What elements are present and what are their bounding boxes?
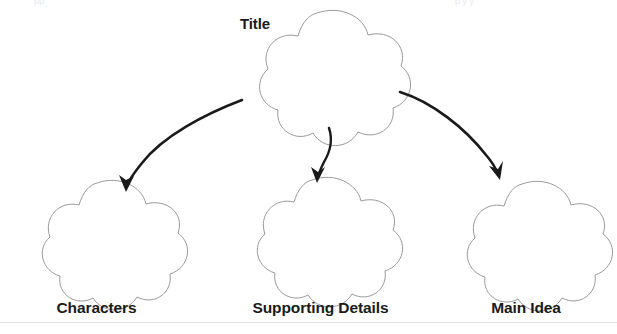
flower-shape-supporting-details[interactable] (257, 177, 402, 307)
node-label-characters: Characters (44, 299, 149, 317)
arrow-title-to-characters (127, 100, 242, 186)
arrow-head-main-idea-icon (489, 161, 503, 180)
node-label-main-idea: Main Idea (480, 299, 572, 317)
arrow-title-to-main-idea (400, 92, 498, 174)
flower-shape-characters[interactable] (42, 180, 187, 310)
flower-shape-title[interactable] (260, 10, 411, 145)
footer-divider (0, 322, 617, 323)
flower-shape-main-idea[interactable] (467, 181, 612, 311)
worksheet-canvas: pp p y y Title Characters Supporting Det… (0, 0, 617, 334)
node-label-supporting-details: Supporting Details (246, 299, 395, 317)
graphic-organizer-diagram (0, 0, 617, 334)
node-label-title: Title (240, 15, 270, 32)
